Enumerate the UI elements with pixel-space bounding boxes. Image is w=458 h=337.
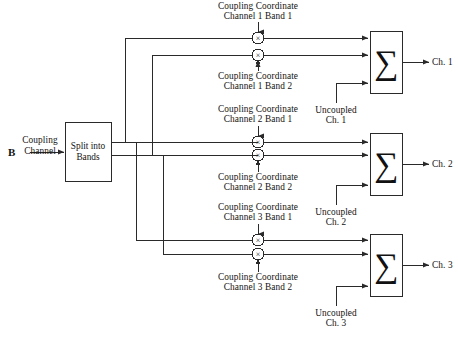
multiplier-glyph-ch3-band2: × — [256, 250, 261, 259]
sigma-glyph-ch3: ∑ — [374, 247, 398, 285]
sigma-glyph-ch1: ∑ — [374, 44, 398, 82]
coupling-coordinate-ch1-band2-line2: Channel 1 Band 2 — [188, 81, 328, 92]
multiplier-glyph-ch3-band1: × — [256, 236, 261, 245]
split-box-label-line2: Bands — [65, 152, 111, 163]
multiplier-glyph-ch1-band1: × — [256, 34, 261, 43]
uncoupled-ch2-line2: Ch. 2 — [301, 217, 371, 228]
sigma-glyph-group: ∑ ∑ ∑ — [374, 44, 398, 285]
input-label-line2: Channel — [14, 146, 66, 157]
uncoupled-ch3-line2: Ch. 3 — [301, 318, 371, 329]
input-label-line1: Coupling — [14, 135, 66, 146]
coupling-coordinate-ch1-band1-line1: Coupling Coordinate — [188, 1, 328, 12]
uncoupled-ch1-line2: Ch. 1 — [301, 115, 371, 126]
signal-flow-diagram: × × × × × × ∑ ∑ ∑ B Coupling Channel Spl… — [0, 0, 458, 337]
uncoupled-ch2-line1: Uncoupled — [301, 207, 371, 218]
coupling-coordinate-ch1-band2-line1: Coupling Coordinate — [188, 71, 328, 82]
coupling-coordinate-ch3-band2-line1: Coupling Coordinate — [188, 272, 328, 283]
coupling-coordinate-ch2-band2-line2: Channel 2 Band 2 — [188, 182, 328, 193]
uncoupled-ch3-line1: Uncoupled — [301, 308, 371, 319]
multiplier-glyph-ch2-band2: × — [256, 151, 261, 160]
output-label-ch2: Ch. 2 — [432, 159, 458, 170]
output-label-ch1: Ch. 1 — [432, 57, 458, 68]
coupling-coordinate-ch3-band2-line2: Channel 3 Band 2 — [188, 282, 328, 293]
uncoupled-ch1-line1: Uncoupled — [301, 105, 371, 116]
multiplier-glyph-ch2-band1: × — [256, 138, 261, 147]
output-label-ch3: Ch. 3 — [432, 260, 458, 271]
split-box-label-line1: Split into — [65, 141, 111, 152]
coupling-coordinate-ch1-band1-line2: Channel 1 Band 1 — [188, 11, 328, 22]
sigma-glyph-ch2: ∑ — [374, 146, 398, 184]
coupling-coordinate-ch2-band2-line1: Coupling Coordinate — [188, 172, 328, 183]
multiplier-glyph-ch1-band2: × — [256, 51, 261, 60]
